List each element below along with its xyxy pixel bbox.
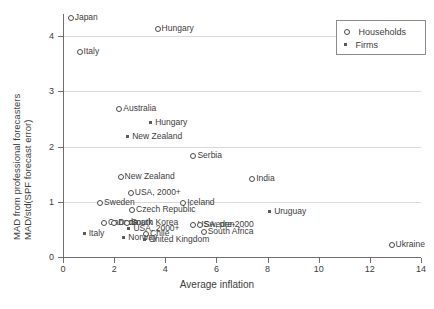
data-point-label: Czech Republic — [136, 205, 196, 214]
y-axis-title-line2: MAD/std(SPF forecast error) — [22, 120, 33, 240]
x-tick-label: 2 — [104, 265, 124, 274]
data-point-label: Serbia — [197, 151, 222, 160]
legend-label-firms: Firms — [356, 40, 379, 50]
data-point-label: Uruguay — [274, 207, 306, 216]
y-tick — [58, 147, 63, 148]
x-tick-label: 4 — [155, 265, 175, 274]
data-point — [101, 220, 107, 226]
data-point — [389, 242, 395, 248]
x-tick — [63, 258, 64, 263]
x-tick — [165, 258, 166, 263]
y-tick-label: 0 — [38, 253, 54, 262]
data-point — [197, 222, 203, 228]
gridline — [63, 147, 421, 148]
data-point-label: Australia — [123, 104, 156, 113]
data-point — [77, 49, 83, 55]
y-tick-label: 1 — [38, 198, 54, 207]
x-tick-label: 12 — [360, 265, 380, 274]
data-point — [149, 121, 152, 124]
data-point-label: New Zealand — [125, 172, 175, 181]
data-point — [143, 238, 146, 241]
x-tick — [370, 258, 371, 263]
data-point — [122, 236, 125, 239]
filled-square-icon — [344, 43, 347, 46]
data-point-label: South Africa — [208, 227, 254, 236]
legend-label-households: Households — [359, 27, 407, 37]
data-point-label: USA, 2000+ — [135, 188, 181, 197]
x-tick-label: 0 — [53, 265, 73, 274]
data-point — [127, 227, 130, 230]
y-tick-label: 4 — [38, 32, 54, 41]
data-point — [83, 232, 86, 235]
x-axis-line — [63, 257, 421, 258]
data-point — [97, 200, 103, 206]
data-point — [118, 174, 124, 180]
x-tick — [216, 258, 217, 263]
x-tick-label: 10 — [309, 265, 329, 274]
y-tick-label: 3 — [38, 87, 54, 96]
data-point-label: India — [256, 174, 274, 183]
y-axis-title-line1: MAD from professional forecasters — [11, 94, 22, 240]
y-tick — [58, 91, 63, 92]
data-point — [111, 220, 117, 226]
data-point-label: Hungary — [162, 24, 194, 33]
x-tick — [268, 258, 269, 263]
gridline — [63, 91, 421, 92]
open-circle-icon — [344, 29, 350, 35]
y-tick — [58, 202, 63, 203]
data-point-label: United Kingdom — [149, 235, 209, 244]
data-point — [129, 207, 135, 213]
x-tick — [114, 258, 115, 263]
chart-legend: Households Firms — [336, 20, 426, 55]
x-tick-label: 14 — [411, 265, 431, 274]
y-tick-label: 2 — [38, 143, 54, 152]
x-tick-label: 8 — [258, 265, 278, 274]
scatter-chart: 0123402468101214 JapanHungaryItalyAustra… — [0, 0, 434, 309]
data-point-label: Italy — [89, 229, 105, 238]
data-point-label: New Zealand — [132, 132, 182, 141]
y-axis-line — [63, 14, 64, 257]
data-point-label: Italy — [84, 47, 100, 56]
x-tick-label: 6 — [206, 265, 226, 274]
x-axis-title: Average inflation — [0, 279, 434, 290]
legend-item-firms[interactable]: Firms — [344, 39, 378, 50]
x-tick — [421, 258, 422, 263]
data-point — [126, 135, 129, 138]
data-point-label: Hungary — [155, 118, 187, 127]
data-point-label: Japan — [75, 13, 98, 22]
y-tick — [58, 36, 63, 37]
data-point-label: Ukraine — [396, 240, 425, 249]
legend-item-households[interactable]: Households — [344, 26, 406, 37]
data-point — [249, 176, 255, 182]
data-point-label: Sweden — [104, 198, 135, 207]
data-point — [124, 220, 130, 226]
x-tick — [319, 258, 320, 263]
data-point — [268, 210, 271, 213]
